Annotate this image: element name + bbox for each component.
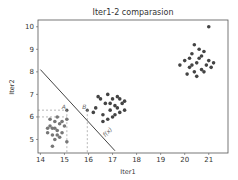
data-point bbox=[55, 133, 59, 137]
y-tick-label: 5 bbox=[30, 136, 34, 144]
y-axis-ticks: 5678910 bbox=[25, 23, 38, 144]
data-point bbox=[101, 113, 105, 117]
data-point bbox=[183, 59, 187, 63]
data-point bbox=[60, 131, 64, 135]
data-point bbox=[46, 131, 50, 135]
data-point bbox=[53, 120, 57, 124]
data-point bbox=[53, 126, 57, 130]
data-point bbox=[178, 63, 182, 67]
chart-title: Iter1-2 comparasion bbox=[93, 8, 174, 17]
plot-area: f(x)AB bbox=[38, 25, 215, 153]
y-tick-label: 9 bbox=[30, 46, 34, 54]
y-tick-label: 10 bbox=[25, 23, 34, 31]
data-point bbox=[190, 52, 194, 56]
x-tick-label: 19 bbox=[156, 156, 165, 164]
scatter-chart: Iter1-2 comparasion f(x)AB 1415161718192… bbox=[0, 0, 238, 180]
data-point bbox=[108, 102, 112, 106]
data-point bbox=[123, 99, 127, 103]
point-label: A bbox=[61, 103, 66, 110]
data-point bbox=[92, 111, 96, 115]
x-axis-ticks: 1415161718192021 bbox=[36, 153, 213, 164]
plot-frame bbox=[38, 20, 228, 153]
data-point bbox=[65, 140, 69, 144]
data-point bbox=[116, 106, 120, 110]
data-point bbox=[202, 70, 206, 74]
data-point bbox=[46, 126, 50, 130]
x-axis-label: Iter1 bbox=[120, 168, 135, 176]
data-point bbox=[195, 75, 199, 79]
data-point bbox=[123, 108, 127, 112]
x-tick-label: 20 bbox=[180, 156, 189, 164]
data-point bbox=[104, 102, 108, 106]
data-point bbox=[209, 66, 213, 70]
data-point bbox=[48, 117, 52, 121]
y-tick-label: 6 bbox=[30, 113, 35, 121]
data-point bbox=[106, 117, 110, 121]
data-point bbox=[200, 54, 204, 58]
data-point bbox=[113, 113, 117, 117]
data-point bbox=[101, 120, 105, 124]
data-point bbox=[96, 95, 100, 99]
point-label: B bbox=[82, 103, 86, 110]
y-tick-label: 8 bbox=[30, 68, 34, 76]
data-point bbox=[55, 115, 59, 119]
data-point bbox=[188, 57, 192, 61]
x-tick-label: 15 bbox=[60, 156, 69, 164]
data-point bbox=[108, 108, 112, 112]
data-point bbox=[106, 93, 110, 97]
line-label: f(x) bbox=[101, 126, 113, 138]
data-point bbox=[207, 59, 211, 63]
data-point bbox=[118, 97, 122, 101]
x-tick-label: 16 bbox=[84, 156, 93, 164]
data-point bbox=[195, 61, 199, 65]
data-point bbox=[94, 106, 98, 110]
x-tick-label: 17 bbox=[108, 156, 117, 164]
data-point bbox=[118, 111, 122, 115]
data-point bbox=[51, 133, 55, 137]
x-tick-label: 18 bbox=[132, 156, 141, 164]
data-point bbox=[51, 144, 55, 148]
data-point bbox=[212, 61, 216, 65]
data-point bbox=[197, 48, 201, 52]
data-point bbox=[207, 25, 211, 29]
data-point bbox=[111, 97, 115, 101]
data-point bbox=[202, 50, 206, 54]
data-point bbox=[60, 120, 64, 124]
data-point bbox=[193, 43, 197, 47]
data-point bbox=[190, 63, 194, 67]
data-point bbox=[205, 63, 209, 67]
data-point bbox=[53, 138, 57, 142]
data-point bbox=[193, 70, 197, 74]
data-point bbox=[185, 72, 189, 76]
x-tick-label: 14 bbox=[36, 156, 45, 164]
data-point bbox=[65, 117, 69, 121]
y-axis-label: Iter2 bbox=[8, 79, 16, 94]
x-tick-label: 21 bbox=[204, 156, 213, 164]
data-point bbox=[63, 124, 67, 128]
y-tick-label: 7 bbox=[30, 91, 34, 99]
